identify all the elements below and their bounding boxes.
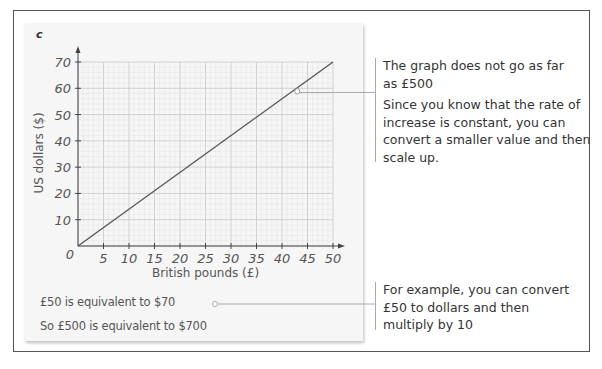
top-annotation-para2-line-3: convert a smaller value and then: [383, 131, 593, 149]
top-annotation-para2-line-1: Since you know that the rate of: [383, 96, 593, 114]
top-annotation-para2-line-2: increase is constant, you can: [383, 114, 593, 132]
top-annotation-para2-line-4: scale up.: [383, 149, 593, 167]
top-annotation: The graph does not go as far as £500 Sin…: [383, 57, 593, 166]
x-tick-label: 20: [172, 251, 189, 266]
bottom-annotation-line-3: multiply by 10: [383, 316, 593, 334]
y-tick-label: 20: [54, 186, 71, 201]
x-tick-label: 15: [146, 251, 163, 266]
top-leader-line: [300, 92, 375, 93]
y-tick-label: 50: [54, 108, 71, 123]
y-axis-arrow-icon: [76, 46, 81, 53]
bottom-annotation: For example, you can convert £50 to doll…: [383, 281, 593, 334]
x-axis-label: British pounds (£): [152, 266, 259, 280]
working-line-1: £50 is equivalent to $70: [40, 295, 175, 309]
x-tick-label: 5: [99, 251, 107, 266]
x-tick-label: 25: [197, 251, 214, 266]
bottom-annotation-bracket: [375, 282, 376, 330]
x-tick-label: 10: [121, 251, 138, 266]
y-axis-label: US dollars ($): [32, 108, 46, 198]
origin-label: 0: [66, 247, 74, 262]
x-axis-arrow-icon: [338, 244, 345, 249]
working-line-2: So £500 is equivalent to $700: [40, 319, 207, 333]
x-tick-label: 35: [248, 251, 265, 266]
x-tick-label: 30: [223, 251, 240, 266]
x-tick-label: 40: [274, 251, 291, 266]
y-tick-label: 60: [54, 81, 71, 96]
y-tick-label: 40: [54, 134, 71, 149]
y-tick-label: 30: [54, 160, 71, 175]
y-tick-label: 10: [54, 213, 71, 228]
top-annotation-line-1: The graph does not go as far: [383, 57, 593, 75]
top-annotation-bracket: [375, 58, 376, 162]
x-tick-label: 45: [299, 251, 316, 266]
bottom-annotation-line-2: £50 to dollars and then: [383, 299, 593, 317]
x-tick-label: 50: [325, 251, 342, 266]
y-tick-label: 70: [54, 55, 71, 70]
top-annotation-line-2: as £500: [383, 75, 593, 93]
bottom-annotation-line-1: For example, you can convert: [383, 281, 593, 299]
